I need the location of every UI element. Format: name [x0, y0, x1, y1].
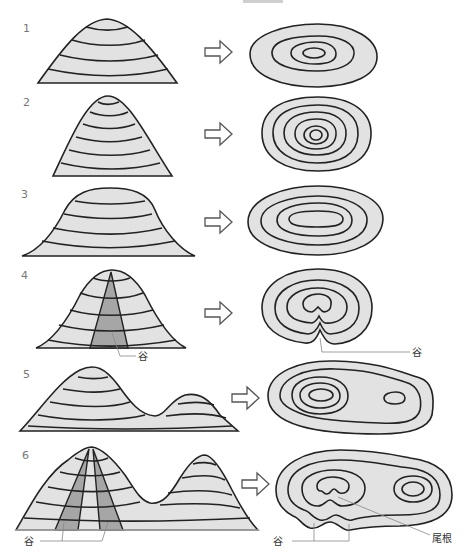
- valley-label: 谷: [412, 347, 422, 358]
- panel-number: 5: [23, 368, 30, 381]
- profile-hill: [53, 96, 172, 176]
- profile-hill: [36, 270, 186, 348]
- panel-2: 2: [23, 96, 371, 176]
- contour-map: [250, 24, 377, 87]
- contour-map: [268, 361, 433, 434]
- arrow-right-icon: [205, 211, 232, 233]
- arrow-right-icon: [242, 473, 269, 495]
- arrow-right-icon: [205, 123, 232, 145]
- contour-map: [276, 450, 452, 530]
- profile-hill: [22, 188, 195, 256]
- panel-number: 2: [23, 96, 30, 109]
- panel-number: 4: [21, 269, 28, 282]
- ridge-label: 尾根: [432, 532, 452, 544]
- panel-1: 1: [23, 19, 377, 87]
- contour-diagram: 1 2: [0, 0, 469, 559]
- contour-map: [262, 269, 372, 344]
- arrow-right-icon: [205, 41, 232, 63]
- panel-4: 4 谷 谷: [21, 269, 422, 362]
- panel-number: 1: [23, 22, 30, 35]
- panel-number: 6: [22, 449, 29, 462]
- panel-5: 5: [20, 361, 433, 434]
- panel-number: 3: [21, 188, 28, 201]
- contour-map: [248, 186, 383, 255]
- valley-label: 谷: [24, 536, 34, 547]
- cropped-title-fragment: [243, 0, 283, 3]
- profile-two-peaks: [14, 447, 260, 530]
- panel-6: 6 谷 谷: [14, 447, 452, 547]
- profile-two-peaks: [20, 367, 238, 431]
- profile-hill: [38, 19, 177, 83]
- valley-label: 谷: [273, 536, 283, 547]
- valley-label: 谷: [138, 351, 148, 362]
- arrow-right-icon: [232, 387, 259, 409]
- arrow-right-icon: [205, 302, 232, 324]
- contour-map: [262, 97, 371, 171]
- panel-3: 3: [21, 186, 383, 256]
